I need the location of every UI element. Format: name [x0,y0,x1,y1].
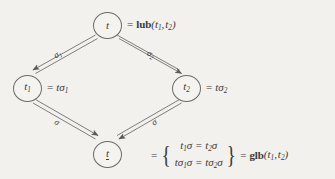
node-bottom-label: t [106,148,109,161]
left-brace: { [162,144,171,166]
right-node-value: tσ2 [215,81,227,93]
constraint-row-2: tσ1σ = tσ2σ [175,155,223,172]
equals-sign: = [44,81,56,93]
node-top-label: t [106,20,109,31]
left-node-value: tσ1 [56,81,68,93]
lub-arguments: (t1, t2) [151,18,175,30]
equals-sign: = [203,81,215,93]
right-node-equation: =tσ2 [203,81,227,95]
glb-arguments: (t1, t2) [264,148,288,162]
edge-top-to-left [33,35,98,74]
top-node-equation: =lub(t1, t2) [124,18,176,32]
node-bottom: t [93,141,122,168]
equals-sign: = [124,18,136,30]
node-right: t2 [172,75,201,102]
equals-sign: = [148,149,160,161]
edge-left-to-bottom [33,100,98,140]
lattice-diagram: t t1 t2 t =lub(t1, t2) =tσ1 =tσ2 = { t1σ… [0,0,335,179]
glb-operator: glb [249,149,263,161]
node-left: t1 [13,75,42,102]
constraint-row-1: t1σ = t2σ [180,138,217,155]
lub-operator: lub [136,18,151,30]
right-brace: } [226,144,235,166]
node-right-label: t2 [183,81,190,94]
constraint-set: t1σ = t2σ tσ1σ = tσ2σ [173,138,225,172]
left-node-equation: =tσ1 [44,81,68,95]
bottom-node-equation: = { t1σ = t2σ tσ1σ = tσ2σ } =glb(t1, t2) [148,138,288,172]
node-top: t [93,12,122,39]
equals-sign: = [237,149,249,161]
node-left-label: t1 [24,81,31,94]
